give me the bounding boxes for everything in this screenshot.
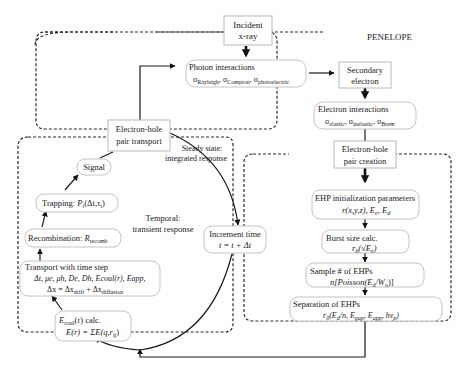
increment-label-1: Increment time [209, 229, 261, 239]
ehp-init-label-1: EHP initialization parameters [315, 193, 415, 203]
arrow-ecoul-to-transport [52, 296, 62, 310]
ehp-transport-label-2: pair transport [116, 136, 162, 146]
trapping-label: Trapping: Pt(Δt,τt) [42, 198, 105, 209]
temporal-label-2: transient response [132, 224, 193, 234]
separation-label-1: Separation of EHPs [293, 299, 360, 309]
flow-diagram: PENELOPE Steady state: integrated respon… [0, 0, 463, 375]
ehp-init-label-2: r(x,y,z), Ee, Ed [342, 205, 391, 216]
arrow-transport-to-photon [140, 66, 175, 120]
ehp-creation-label-2: pair creation [344, 156, 387, 166]
sample-label-1: Sample # of EHPs [310, 266, 373, 276]
sample-label-2: n[Poisson(Ed/Wo)] [330, 277, 394, 288]
secondary-label-2: electron [351, 76, 379, 86]
electron-int-label: Electron interactions [318, 104, 389, 114]
increment-label-2: t = t + Δt [219, 240, 252, 250]
line-transport-to-signal [100, 152, 113, 158]
penelope-label: PENELOPE [367, 32, 413, 42]
signal-label: Signal [83, 162, 105, 172]
transport-label-2: Δt, μe, μh, De, Dh, Ecoul(r), Eapp, [33, 274, 146, 283]
ehp-transport-label-1: Electron-hole [116, 124, 162, 134]
photon-label: Photon interactions [189, 62, 255, 72]
incident-label-2: x-ray [239, 31, 258, 41]
arrow-recomb-to-trapping [42, 211, 46, 227]
temporal-label-1: Temporal: [146, 213, 181, 223]
transport-label-1: Transport with time step [25, 262, 108, 272]
incident-label-1: Incident [233, 20, 263, 30]
arrow-trapping-to-signal [65, 175, 78, 190]
ecoul-label-2: E(r) = ΣE(q,rij) [65, 327, 119, 338]
ehp-creation-label-1: Electron-hole [342, 144, 388, 154]
burst-label-1: Burst size calc. [326, 233, 378, 243]
penelope-region [35, 32, 323, 45]
secondary-label-1: Secondary [347, 65, 384, 75]
steady-state-label-1: Steady state: [182, 144, 223, 153]
steady-state-label-2: integrated response [165, 154, 227, 163]
